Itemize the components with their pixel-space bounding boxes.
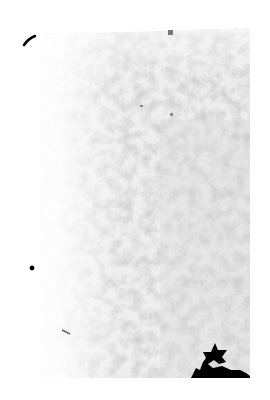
image-canvas <box>0 0 270 400</box>
pen-mark <box>24 36 35 45</box>
dot-mark <box>30 266 35 271</box>
speckled-texture <box>0 0 270 400</box>
